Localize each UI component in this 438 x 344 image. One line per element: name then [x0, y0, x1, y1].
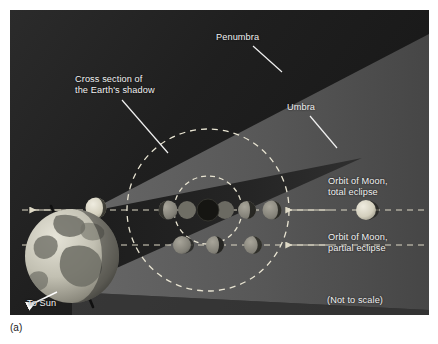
- moon-total-2: [178, 201, 196, 219]
- label-orbit-partial-eclipse: Orbit of Moon, partial eclipse: [328, 232, 388, 255]
- moon-partial-3: [244, 236, 262, 254]
- eclipse-scene: [10, 10, 429, 315]
- moon-total-4: [238, 201, 256, 219]
- label-umbra: Umbra: [287, 102, 315, 113]
- moon-total-5: [263, 201, 282, 220]
- label-cross-section: Cross section of the Earth's shadow: [75, 74, 155, 97]
- moon-partial-2: [206, 236, 224, 254]
- label-penumbra: Penumbra: [216, 32, 259, 43]
- label-to-sun: To Sun: [27, 298, 56, 309]
- eclipse-figure: Penumbra Umbra Cross section of the Eart…: [0, 0, 438, 344]
- diagram-frame: Penumbra Umbra Cross section of the Eart…: [10, 10, 429, 315]
- moon-total-eclipsed-center: [197, 199, 219, 221]
- moon-row-partial: [173, 236, 262, 254]
- label-not-to-scale: (Not to scale): [327, 295, 383, 306]
- label-orbit-total-eclipse: Orbit of Moon, total eclipse: [328, 176, 388, 199]
- figure-caption: (a): [10, 322, 22, 333]
- moon-total-1: [159, 201, 178, 220]
